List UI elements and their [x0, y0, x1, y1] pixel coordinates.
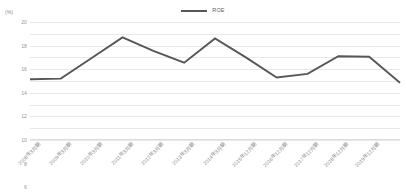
x-axis-tick-label: 2008年3月期: [17, 142, 41, 166]
x-axis-tick-label: 2010年3月期: [79, 142, 103, 166]
y-axis-tick-label: 20: [21, 20, 27, 25]
x-axis-tick-label: 2018年12月期: [324, 142, 350, 168]
y-axis-tick-label: 16: [21, 68, 27, 73]
x-axis-tick-label: 2017年12月期: [293, 142, 319, 168]
line-swatch-icon: [181, 10, 207, 12]
x-axis-baseline: [30, 139, 400, 140]
x-axis-tick-label: 2019年12月期: [355, 142, 381, 168]
roe-line-chart: ROE (%) 20181614121086420 2008年3月期2009年3…: [0, 0, 406, 196]
series-line-roe: [30, 22, 400, 140]
y-axis-tick-label: 10: [21, 138, 27, 143]
x-axis-tick-label: 2009年3月期: [48, 142, 72, 166]
x-axis-tick-label: 2016年12月期: [262, 142, 288, 168]
y-axis-tick-label: 6: [24, 186, 27, 191]
x-axis-tick-label: 2015年12月期: [231, 142, 257, 168]
legend-item-label: ROE: [212, 8, 224, 13]
y-axis-tick-label: 12: [21, 115, 27, 120]
x-axis-tick-label: 2011年3月期: [110, 142, 134, 166]
y-axis-tick-label: 18: [21, 44, 27, 49]
x-axis-labels: 2008年3月期2009年3月期2010年3月期2011年3月期2012年3月期…: [30, 142, 400, 196]
y-axis-unit-label: (%): [5, 10, 13, 15]
x-axis-tick-label: 2013年3月期: [172, 142, 196, 166]
x-axis-tick-label: 2014年3月期: [202, 142, 226, 166]
y-axis-tick-label: 14: [21, 91, 27, 96]
x-axis-tick-label: 2012年3月期: [141, 142, 165, 166]
plot-area: 20181614121086420: [30, 22, 400, 140]
y-axis-tick-label: 8: [24, 162, 27, 167]
chart-legend: ROE: [0, 4, 406, 18]
